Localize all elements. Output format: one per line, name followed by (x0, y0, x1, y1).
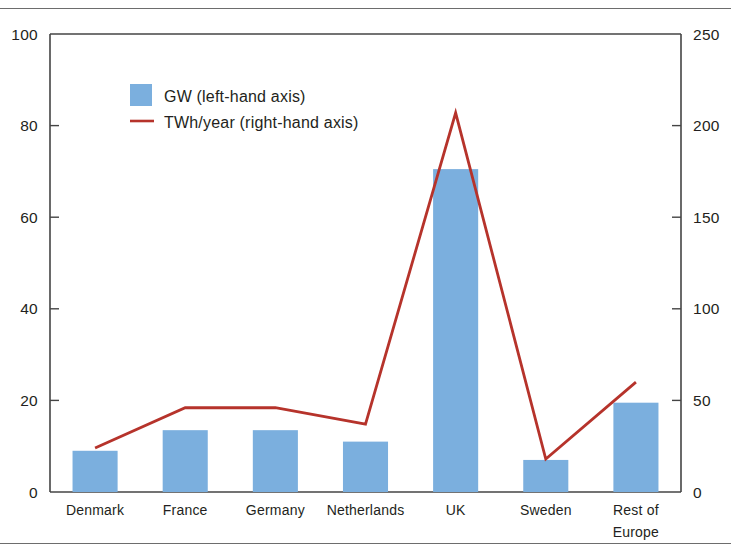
combo-chart-canvas: 020406080100 050100150200250 DenmarkFran… (0, 0, 731, 552)
bar-france (163, 430, 208, 492)
category-label-denmark: Denmark (66, 502, 125, 518)
legend-swatch-gw (130, 84, 152, 106)
left-tick-label: 20 (20, 392, 38, 409)
category-label-rest-of-europe: Rest of (613, 502, 659, 518)
bar-series-group (73, 169, 659, 492)
chart-legend: GW (left-hand axis) TWh/year (right-hand… (130, 84, 359, 131)
right-tick-label: 250 (693, 26, 720, 43)
right-tick-label: 100 (693, 300, 720, 317)
left-tick-label: 100 (11, 26, 38, 43)
bar-sweden (523, 460, 568, 492)
bar-netherlands (343, 442, 388, 492)
left-tick-label: 40 (20, 300, 38, 317)
twh-line-path (95, 113, 636, 459)
x-axis-category-labels: DenmarkFranceGermanyNetherlandsUKSwedenR… (66, 502, 659, 540)
category-label-germany: Germany (246, 502, 305, 518)
right-tick-label: 200 (693, 117, 720, 134)
legend-label-gw: GW (left-hand axis) (164, 88, 306, 105)
chart-figure: 020406080100 050100150200250 DenmarkFran… (0, 0, 731, 552)
right-tick-label: 150 (693, 209, 720, 226)
bar-denmark (73, 451, 118, 492)
left-tick-label: 0 (29, 484, 38, 501)
left-tick-label: 60 (20, 209, 38, 226)
left-tick-label: 80 (20, 117, 38, 134)
right-axis-ticks: 050100150200250 (672, 26, 720, 501)
category-label-france: France (163, 502, 208, 518)
line-series-group (95, 113, 636, 459)
right-tick-label: 0 (693, 484, 702, 501)
bar-germany (253, 430, 298, 492)
category-label-netherlands: Netherlands (327, 502, 405, 518)
right-tick-label: 50 (693, 392, 711, 409)
left-axis-ticks: 020406080100 (11, 26, 59, 501)
bar-rest-of-europe (613, 403, 658, 492)
category-label-rest-of-europe: Europe (613, 524, 659, 540)
category-label-uk: UK (446, 502, 466, 518)
legend-label-twh: TWh/year (right-hand axis) (164, 114, 359, 131)
bar-uk (433, 169, 478, 492)
category-label-sweden: Sweden (520, 502, 572, 518)
